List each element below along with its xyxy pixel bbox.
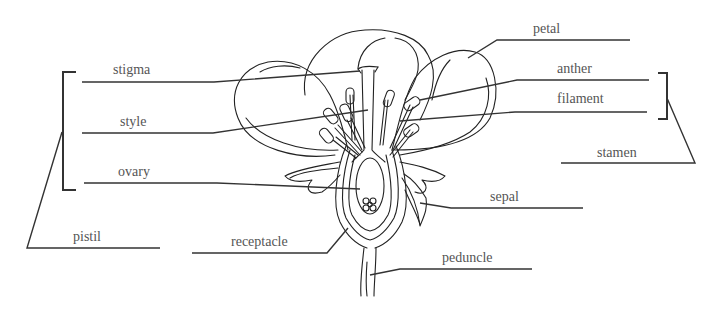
label-style: style	[120, 115, 146, 129]
label-stamen: stamen	[597, 146, 637, 160]
label-filament: filament	[557, 92, 604, 106]
petal-leader	[468, 40, 630, 58]
brackets	[63, 72, 667, 190]
label-receptacle: receptacle	[231, 235, 288, 249]
stamen-bracket	[658, 73, 667, 119]
pistil-bracket	[63, 72, 76, 190]
label-pistil: pistil	[73, 230, 101, 244]
label-ovary: ovary	[118, 165, 150, 179]
filament-leader	[400, 112, 647, 121]
label-petal: petal	[533, 22, 560, 36]
label-anther: anther	[557, 62, 592, 76]
anther-leader	[420, 80, 649, 100]
ovary-leader	[84, 183, 360, 189]
peduncle-leader	[370, 269, 532, 275]
label-peduncle: peduncle	[442, 251, 493, 265]
label-stigma: stigma	[113, 63, 150, 77]
label-sepal: sepal	[490, 190, 519, 204]
flower-diagram: stigma style ovary pistil receptacle pet…	[0, 0, 721, 312]
